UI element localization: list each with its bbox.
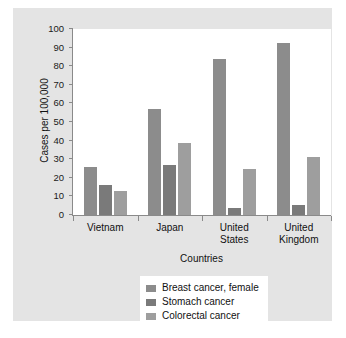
bar (243, 169, 256, 216)
bar (148, 109, 161, 215)
bar (99, 185, 112, 215)
y-axis-tick-mark (69, 47, 73, 48)
legend-item: Colorectal cancer (146, 309, 259, 323)
bar (277, 43, 290, 215)
y-axis-tick: 100 (13, 23, 73, 34)
y-axis-tick-label: 10 (53, 190, 64, 201)
y-axis-tick-mark (69, 84, 73, 85)
bar (84, 167, 97, 215)
bar (292, 205, 305, 215)
bar (228, 208, 241, 215)
y-axis-title: Cases per 100,000 (39, 46, 50, 196)
chart-figure: 1009080706050403020100 Cases per 100,000… (0, 0, 346, 338)
y-axis-tick-mark (69, 195, 73, 196)
y-axis-tick-mark (69, 140, 73, 141)
x-axis-tick-mark (267, 216, 268, 221)
y-axis-tick-label: 20 (53, 172, 64, 183)
legend-label: Colorectal cancer (162, 310, 240, 322)
plot-area (73, 29, 331, 215)
y-axis-tick-mark (69, 158, 73, 159)
y-axis-tick-mark (69, 65, 73, 66)
legend-label: Stomach cancer (162, 296, 234, 308)
x-axis-category-label: Vietnam (73, 222, 138, 234)
y-axis-tick-label: 90 (53, 42, 64, 53)
x-axis-category-label: United States (202, 222, 267, 245)
x-axis-tick-mark (202, 216, 203, 221)
legend-swatch (146, 313, 156, 320)
y-axis-tick-label: 30 (53, 153, 64, 164)
x-axis-tick-mark (331, 216, 332, 221)
y-axis-tick-label: 70 (53, 79, 64, 90)
y-axis-tick-label: 100 (48, 23, 64, 34)
x-axis-category-label: Japan (138, 222, 203, 234)
bar (178, 143, 191, 215)
legend-item: Breast cancer, female (146, 281, 259, 295)
chart-legend: Breast cancer, femaleStomach cancerColor… (140, 276, 268, 328)
x-axis-tick-mark (73, 216, 74, 221)
chart-panel: 1009080706050403020100 Cases per 100,000… (13, 8, 332, 321)
bar (213, 59, 226, 215)
y-axis-tick-label: 0 (59, 209, 64, 220)
legend-label: Breast cancer, female (162, 282, 259, 294)
x-axis-title: Countries (72, 253, 331, 264)
legend-item: Stomach cancer (146, 295, 259, 309)
y-axis-tick-label: 50 (53, 116, 64, 127)
y-axis-tick-label: 80 (53, 60, 64, 71)
bar (114, 191, 127, 215)
y-axis-tick-label: 60 (53, 97, 64, 108)
bar (163, 165, 176, 215)
bar (307, 157, 320, 215)
y-axis-tick-mark (69, 177, 73, 178)
y-axis-tick-label: 40 (53, 135, 64, 146)
y-axis-tick-mark (69, 121, 73, 122)
legend-swatch (146, 285, 156, 292)
legend-swatch (146, 299, 156, 306)
y-axis-tick-mark (69, 28, 73, 29)
y-axis-tick: 0 (13, 209, 73, 220)
x-axis-category-label: United Kingdom (267, 222, 332, 245)
y-axis-tick-mark (69, 102, 73, 103)
x-axis-tick-mark (138, 216, 139, 221)
y-axis-tick-mark (69, 214, 73, 215)
